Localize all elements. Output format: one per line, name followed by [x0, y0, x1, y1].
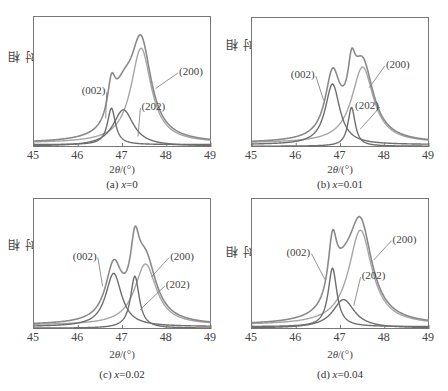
x-tick-label: 48: [160, 330, 172, 345]
plot-area: [252, 18, 429, 147]
caption-prefix: (a): [106, 178, 121, 190]
annotation-leader-line: [140, 286, 165, 309]
x-tick-label: 47: [116, 148, 128, 163]
panel-caption: (c) x=0.02: [99, 368, 144, 380]
annotation-leader-line: [106, 92, 107, 118]
x-axis-label: 2θ/(°): [109, 348, 135, 360]
annotation-leader-line: [316, 76, 324, 101]
plot-area: [34, 17, 211, 147]
panel-caption: (a) x=0: [106, 178, 138, 190]
x-label-suffix: /(°): [120, 348, 135, 360]
curve-200: [34, 48, 211, 142]
caption-prefix: (d): [317, 368, 333, 380]
x-tick-label: 49: [422, 148, 434, 163]
peak-annotation-label: (202): [362, 269, 386, 281]
annotation-leader-line: [369, 66, 385, 88]
peak-annotation-label: (202): [355, 99, 379, 111]
x-label-suffix: /(°): [338, 163, 353, 175]
x-tick-label: 45: [245, 330, 257, 345]
plot-area: [252, 199, 429, 329]
plot-frame: [33, 198, 211, 329]
x-tick-label: 49: [204, 148, 216, 163]
plot-frame: [33, 16, 211, 147]
peak-annotation-label: (002): [82, 84, 106, 96]
x-axis-label: 2θ/(°): [109, 163, 135, 175]
x-tick-label: 45: [245, 148, 257, 163]
x-tick-label: 49: [204, 330, 216, 345]
peak-annotation-label: (002): [73, 250, 97, 262]
x-tick-label: 46: [71, 148, 83, 163]
annotation-leader-line: [151, 258, 169, 278]
x-tick-label: 46: [289, 330, 301, 345]
x-tick-label: 48: [378, 330, 390, 345]
caption-value: =0.04: [338, 368, 363, 380]
caption-value: =0: [126, 178, 138, 190]
peak-annotation-label: (200): [386, 58, 410, 70]
x-tick-label: 47: [334, 148, 346, 163]
x-tick-label: 46: [289, 148, 301, 163]
peak-annotation-label: (002): [286, 246, 310, 258]
x-tick-label: 46: [71, 330, 83, 345]
panel-caption: (d) x=0.04: [317, 368, 363, 380]
x-tick-label: 45: [27, 330, 39, 345]
annotation-leader-line: [354, 277, 361, 306]
x-axis-label: 2θ/(°): [327, 163, 353, 175]
x-tick-label: 48: [378, 148, 390, 163]
annotation-leader-line: [374, 241, 392, 261]
plot-area: [34, 199, 211, 329]
x-tick-label: 47: [116, 330, 128, 345]
x-label-suffix: /(°): [120, 163, 135, 175]
peak-annotation-label: (202): [166, 278, 190, 290]
curve-002: [252, 268, 429, 326]
peak-annotation-label: (200): [393, 233, 417, 245]
curve-sum: [34, 226, 211, 323]
caption-prefix: (c): [99, 368, 114, 380]
curve-sum: [34, 35, 211, 141]
caption-value: =0.01: [338, 178, 363, 190]
peak-annotation-label: (202): [141, 100, 165, 112]
x-label-suffix: /(°): [338, 348, 353, 360]
x-tick-label: 49: [422, 330, 434, 345]
annotation-leader-line: [156, 73, 178, 89]
caption-prefix: (b): [317, 178, 333, 190]
x-axis-label: 2θ/(°): [327, 348, 353, 360]
x-tick-label: 47: [334, 330, 346, 345]
x-tick-label: 48: [160, 148, 172, 163]
annotation-leader-line: [98, 258, 103, 287]
annotation-leader-line: [311, 254, 325, 280]
peak-annotation-label: (200): [179, 65, 203, 77]
peak-annotation-label: (200): [170, 250, 194, 262]
x-tick-label: 45: [27, 148, 39, 163]
plot-frame: [251, 17, 429, 147]
panel-caption: (b) x=0.01: [317, 178, 363, 190]
caption-value: =0.02: [119, 368, 144, 380]
curve-200: [252, 67, 429, 142]
peak-annotation-label: (002): [291, 68, 315, 80]
plot-frame: [251, 198, 429, 329]
